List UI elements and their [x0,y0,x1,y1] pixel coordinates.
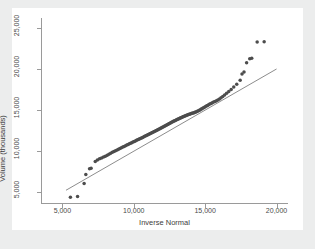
y-tick-mark [37,69,41,70]
x-tick-label: 15,000 [185,207,225,214]
qq-plot-figure: 5,00010,00015,00020,00025,000 5,00010,00… [0,0,315,249]
y-axis-line [41,18,42,204]
y-tick-mark [37,151,41,152]
y-tick-mark [37,28,41,29]
x-axis-line [41,203,288,204]
x-axis-title: Inverse Normal [41,218,288,227]
y-axis-title: Volume (thousands) [0,89,7,209]
y-tick-mark [37,192,41,193]
y-tick-mark [37,110,41,111]
x-tick-label: 20,000 [257,207,297,214]
plot-canvas [12,8,303,230]
y-tick-label: 25,000 [0,22,34,29]
x-tick-label: 10,000 [114,207,154,214]
x-tick-label: 5,000 [42,207,82,214]
y-tick-label: 20,000 [0,63,34,70]
